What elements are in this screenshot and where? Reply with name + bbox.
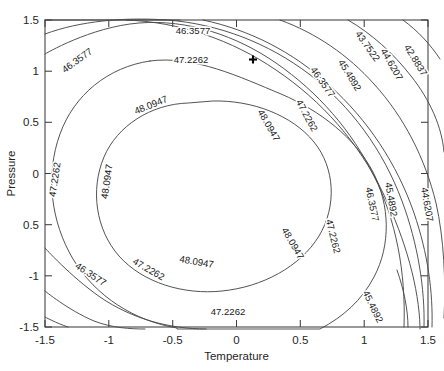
contour-plot-figure: 46.357746.357747.226248.094747.226248.09… (0, 0, 444, 371)
contour-level-label: 45.4892 (361, 288, 386, 324)
contour-level-44-6207 (126, 20, 420, 329)
x-tick-label: 1 (361, 334, 367, 346)
x-tick-label: -1.5 (35, 334, 55, 346)
x-axis-tick-labels: -1.5-1-0.500.511.5 (35, 334, 436, 346)
contour-level-label: 46.3577 (176, 25, 211, 36)
contour-level-label: 48.0947 (256, 107, 283, 143)
y-tick-label: 1 (33, 65, 39, 77)
x-axis-title: Temperature (204, 350, 269, 362)
x-tick-label: 0 (233, 334, 239, 346)
contour-level-45-4892-lower (45, 291, 145, 329)
contour-level-label: 48.0947 (133, 93, 169, 116)
y-tick-label: 0 (33, 168, 39, 180)
contour-level-label: 42.8837 (402, 43, 430, 78)
contour-level-label: 46.3577 (60, 46, 95, 75)
contour-level-label: 47.2262 (324, 218, 343, 254)
contour-level-label: 47.2262 (47, 162, 63, 198)
contour-level-label: 46.3577 (73, 260, 108, 288)
contour-level-label: 48.0947 (280, 225, 307, 261)
y-tick-label: 0.5 (23, 219, 39, 231)
contour-level-label: 48.0947 (179, 253, 215, 270)
contour-plot-canvas: 46.357746.357747.226248.094747.226248.09… (0, 0, 444, 371)
contour-level-label: 47.2262 (174, 54, 209, 65)
y-axis-tick-labels: -1.5-10.500.511.5 (19, 14, 39, 333)
data-marker-group (249, 56, 257, 64)
contour-level-label: 43.7522 (353, 29, 382, 64)
contour-level-label: 46.3577 (363, 186, 381, 222)
x-tick-label: -1 (104, 334, 114, 346)
y-axis-title: Pressure (5, 150, 17, 196)
y-tick-label: 0.5 (23, 116, 39, 128)
y-tick-label: -1 (29, 270, 39, 282)
y-tick-label: -1.5 (19, 321, 39, 333)
contour-level-44-6207-b (45, 317, 68, 327)
x-tick-label: 1.5 (420, 334, 436, 346)
contour-level-label: 47.2262 (211, 306, 246, 317)
contour-level-label: 45.4892 (336, 58, 364, 93)
x-tick-label: -0.5 (163, 334, 183, 346)
contour-level-label: 46.3577 (308, 65, 337, 100)
x-tick-label: 0.5 (292, 334, 308, 346)
contour-level-label: 47.2262 (294, 97, 320, 133)
contour-level-label: 48.0947 (99, 164, 115, 200)
y-tick-label: 1.5 (23, 14, 39, 26)
contour-level-labels: 46.357746.357747.226248.094747.226248.09… (47, 25, 436, 324)
